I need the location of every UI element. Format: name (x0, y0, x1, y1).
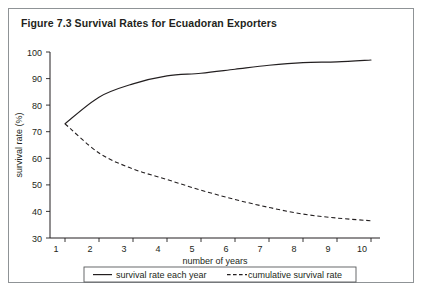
y-tick-label-100: 100 (27, 48, 42, 58)
x-tick-label-10: 10 (357, 244, 367, 254)
chart-canvas: 100 90 80 70 60 50 40 30 survival rate (… (9, 9, 415, 284)
x-tick-label-5: 5 (189, 244, 194, 254)
figure-frame: Figure 7.3 Survival Rates for Ecuadoran … (8, 8, 414, 283)
y-tick-label-50: 50 (32, 180, 42, 190)
x-tick-label-6: 6 (223, 244, 228, 254)
y-tick-label-30: 30 (32, 234, 42, 244)
x-axis-title: number of years (182, 256, 248, 266)
x-axis-ticks (65, 238, 371, 242)
y-tick-label-70: 70 (32, 127, 42, 137)
x-tick-label-9: 9 (325, 244, 330, 254)
legend-label-survival-rate-each-year: survival rate each year (116, 270, 207, 280)
y-tick-label-80: 80 (32, 101, 42, 111)
x-tick-label-4: 4 (155, 244, 160, 254)
y-tick-label-60: 60 (32, 154, 42, 164)
series-cumulative-survival-rate (65, 124, 371, 221)
chart-legend: survival rate each year cumulative survi… (84, 267, 356, 282)
x-tick-label-7: 7 (257, 244, 262, 254)
x-tick-label-3: 3 (121, 244, 126, 254)
legend-label-cumulative-survival-rate: cumulative survival rate (248, 270, 342, 280)
x-tick-label-1: 1 (53, 244, 58, 254)
y-tick-label-90: 90 (32, 74, 42, 84)
y-tick-label-40: 40 (32, 207, 42, 217)
y-axis-title: survival rate (%) (14, 112, 24, 177)
x-tick-label-2: 2 (87, 244, 92, 254)
x-tick-label-8: 8 (291, 244, 296, 254)
series-survival-rate-each-year (65, 60, 371, 124)
y-axis-ticks (46, 52, 50, 238)
